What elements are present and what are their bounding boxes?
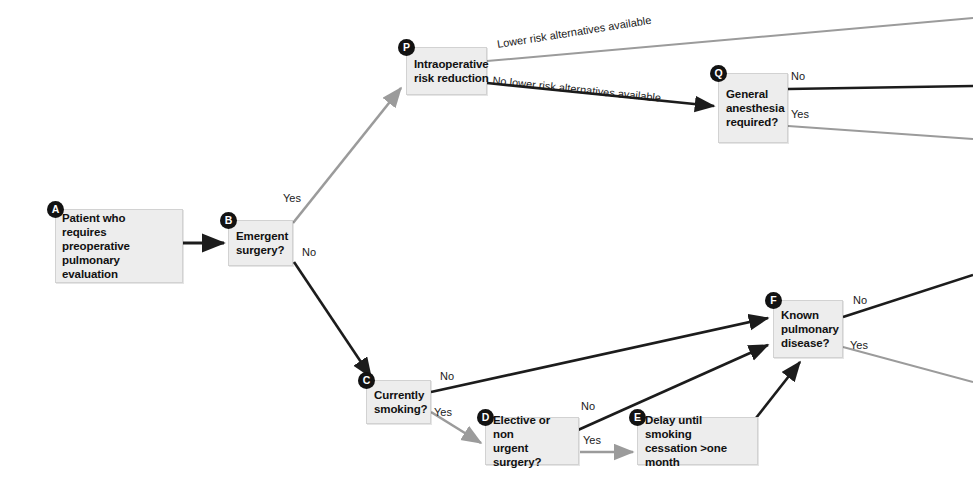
node-a-patient-preoperative-evaluation[interactable]: A Patient who requires preoperative pulm… [55,209,183,283]
node-badge-d: D [477,409,494,426]
node-q-label: General anesthesia required? [719,87,790,129]
edge-label-q-no: No [791,70,805,82]
flowchart-canvas: A Patient who requires preoperative pulm… [0,0,973,493]
node-e-label: Delay until smoking cessation >one month [638,413,757,469]
edge-label-b-no: No [302,246,316,258]
node-d-label: Elective or non urgent surgery? [486,413,578,469]
node-b-emergent-surgery[interactable]: B Emergent surgery? [228,220,293,266]
edge-c-to-f-no [431,318,768,392]
node-a-label: Patient who requires preoperative pulmon… [56,211,182,281]
edge-q-yes [788,126,973,139]
edge-label-q-yes: Yes [791,108,809,120]
edge-b-to-p-yes [293,88,401,223]
edge-e-to-f [756,362,800,418]
node-badge-f: F [765,292,782,309]
node-c-label: Currently smoking? [367,388,434,416]
edge-label-c-no: No [440,370,454,382]
node-badge-p: P [398,39,415,56]
edge-q-no [788,86,973,89]
node-f-label: Known pulmonary disease? [774,308,845,350]
node-badge-c: C [358,372,375,389]
node-badge-a: A [47,201,64,218]
node-p-intraoperative-risk-reduction[interactable]: P Intraoperative risk reduction [406,47,487,95]
node-f-known-pulmonary-disease[interactable]: F Known pulmonary disease? [773,300,843,358]
node-badge-q: Q [710,65,727,82]
edge-label-p-lower-risk: Lower risk alternatives available [496,14,652,50]
node-q-general-anesthesia-required[interactable]: Q General anesthesia required? [718,73,788,143]
node-c-currently-smoking[interactable]: C Currently smoking? [366,380,431,424]
edge-label-p-no-lower-risk: No lower risk alternatives available [492,74,662,104]
node-badge-b: B [220,212,237,229]
node-e-delay-until-smoking-cessation[interactable]: E Delay until smoking cessation >one mon… [637,417,758,465]
edge-label-d-no: No [581,400,595,412]
edge-b-to-c-no [294,262,371,377]
edge-label-f-no: No [853,294,867,306]
edge-label-c-yes: Yes [434,406,452,418]
edge-label-d-yes: Yes [583,434,601,446]
edge-f-yes [843,347,973,382]
node-b-label: Emergent surgery? [229,229,294,257]
edge-label-f-yes: Yes [850,339,868,351]
node-d-elective-or-non-urgent-surgery[interactable]: D Elective or non urgent surgery? [485,417,579,465]
node-p-label: Intraoperative risk reduction [407,57,495,85]
edge-label-b-yes: Yes [283,192,301,204]
node-badge-e: E [629,409,646,426]
